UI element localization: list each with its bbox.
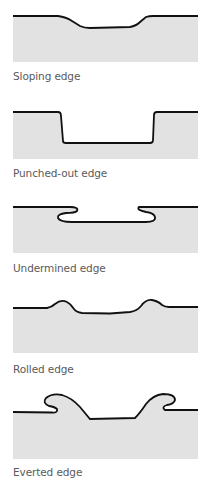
label-undermined-edge: Undermined edge xyxy=(13,262,106,274)
diagram-punched-out-edge: Punched-out edge xyxy=(0,95,208,190)
label-rolled-edge: Rolled edge xyxy=(13,363,74,375)
diagram-everted-edge: Everted edge xyxy=(0,385,208,489)
label-everted-edge: Everted edge xyxy=(13,466,82,478)
label-sloping-edge: Sloping edge xyxy=(13,70,80,82)
label-punched-out-edge: Punched-out edge xyxy=(13,167,107,179)
diagram-rolled-edge: Rolled edge xyxy=(0,285,208,385)
diagram-undermined-edge: Undermined edge xyxy=(0,190,208,285)
diagram-sloping-edge: Sloping edge xyxy=(0,0,208,95)
